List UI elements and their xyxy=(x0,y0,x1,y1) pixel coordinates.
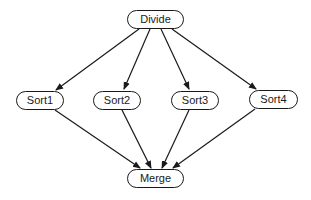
node-divide-label: Divide xyxy=(140,14,171,25)
node-sort3: Sort3 xyxy=(171,91,219,110)
edge-divide-to-sort1 xyxy=(56,29,139,90)
edge-sort1-to-merge xyxy=(55,110,140,168)
node-sort2: Sort2 xyxy=(93,91,141,110)
node-sort4-label: Sort4 xyxy=(260,94,286,105)
node-sort3-label: Sort3 xyxy=(182,95,208,106)
node-sort2-label: Sort2 xyxy=(104,95,130,106)
divide-and-conquer-diagram: Divide Sort1 Sort2 Sort3 Sort4 Merge xyxy=(0,0,311,200)
edge-group xyxy=(55,29,256,168)
edge-divide-to-sort2 xyxy=(124,29,150,89)
node-merge-label: Merge xyxy=(140,173,171,184)
node-sort1: Sort1 xyxy=(16,91,64,110)
node-merge: Merge xyxy=(127,169,184,188)
node-divide: Divide xyxy=(127,10,184,29)
node-sort1-label: Sort1 xyxy=(27,95,53,106)
node-sort4: Sort4 xyxy=(249,90,298,109)
